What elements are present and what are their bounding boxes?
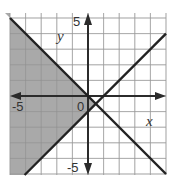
- y-axis-label: y: [57, 28, 64, 45]
- x-axis-label: x: [146, 113, 153, 130]
- inequality-graph: [0, 0, 174, 182]
- y-tick-label-max: 5: [73, 14, 80, 29]
- origin-label: 0: [77, 99, 84, 114]
- x-axis-arrow-right-icon: [155, 92, 166, 100]
- y-tick-label-min: -5: [67, 160, 79, 175]
- x-tick-label-min: -5: [12, 99, 24, 114]
- y-axis-arrow-down-icon: [84, 163, 92, 175]
- y-axis-arrow-up-icon: [84, 13, 92, 25]
